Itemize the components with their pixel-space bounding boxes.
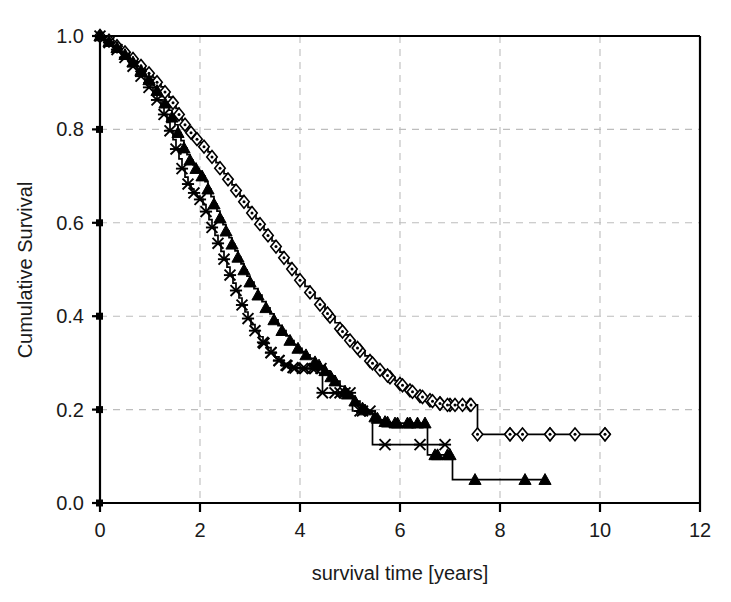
y-tick-square <box>96 406 103 413</box>
series-diamond-marker-center <box>243 200 246 203</box>
series-diamond-censor-marker-center <box>521 433 524 436</box>
x-tick-label: 10 <box>589 519 611 541</box>
series-diamond-censor-marker-center <box>341 330 344 333</box>
series-diamond-censor-marker-center <box>386 374 389 377</box>
series-diamond-marker-center <box>379 368 382 371</box>
plot-canvas: 024681012 0.00.20.40.60.81.0 survival ti… <box>0 0 731 602</box>
y-tick-label: 0.6 <box>56 212 84 234</box>
series-diamond-censor-marker-center <box>411 390 414 393</box>
series-diamond-censor-marker-center <box>401 384 404 387</box>
series-diamond-marker-center <box>203 145 206 148</box>
series-diamond-marker-center <box>227 178 230 181</box>
x-tick-label: 4 <box>294 519 305 541</box>
series-diamond-censor-marker-center <box>431 400 434 403</box>
y-tick-label: 0.0 <box>56 492 84 514</box>
series-diamond-censor-marker-center <box>470 403 473 406</box>
series-diamond-marker-center <box>349 339 352 342</box>
series-diamond-censor-marker-center <box>461 403 464 406</box>
series-diamond-marker-center <box>476 433 479 436</box>
series-cross-marker <box>414 439 426 450</box>
series-diamond-marker-center <box>211 155 214 158</box>
series-triangle-marker <box>202 183 214 194</box>
series-triangle-marker <box>214 212 226 223</box>
series-triangle-marker <box>226 238 238 249</box>
y-tick-square <box>96 126 103 133</box>
y-tick-square <box>96 219 103 226</box>
series-diamond-marker-center <box>291 268 294 271</box>
series-cross-marker <box>379 439 391 450</box>
series-diamond-marker-center <box>299 279 302 282</box>
series-triangle-marker <box>220 225 232 236</box>
series-diamond-censor-marker-center <box>326 312 329 315</box>
series-diamond-censor-marker-center <box>454 403 457 406</box>
series-diamond-marker-center <box>164 91 167 94</box>
series-triangle-marker <box>232 251 244 262</box>
series-diamond-marker-center <box>283 256 286 259</box>
series-triangle-marker <box>184 154 196 165</box>
series-diamond-marker-center <box>190 131 193 134</box>
series-triangle-marker <box>178 142 190 153</box>
y-tick-label: 0.8 <box>56 118 84 140</box>
x-axis-title: survival time [years] <box>312 562 489 584</box>
series-diamond-marker-center <box>184 123 187 126</box>
series-diamond-marker-center <box>219 167 222 170</box>
series-diamond-marker-center <box>235 189 238 192</box>
series-diamond-censor-marker-center <box>371 362 374 365</box>
series-diamond-marker-center <box>196 138 199 141</box>
series-diamond-censor-marker-center <box>446 403 449 406</box>
series-diamond-censor-marker-center <box>356 346 359 349</box>
y-tick-square <box>96 313 103 320</box>
y-tick-label: 1.0 <box>56 25 84 47</box>
series-diamond-censor-marker-center <box>549 433 552 436</box>
series-diamond-marker-center <box>156 81 159 84</box>
survival-curve-figure: 024681012 0.00.20.40.60.81.0 survival ti… <box>0 0 731 602</box>
series-diamond-censor-marker-center <box>574 433 577 436</box>
x-tick-label: 6 <box>394 519 405 541</box>
x-tick-label: 2 <box>194 519 205 541</box>
series-diamond-line <box>100 36 605 434</box>
y-tick-label: 0.2 <box>56 399 84 421</box>
series-diamond-censor-marker-center <box>439 402 442 405</box>
series-cross-censor-marker <box>439 439 451 450</box>
series-diamond-marker-center <box>178 113 181 116</box>
series-diamond-censor-marker-center <box>509 433 512 436</box>
censor-markers <box>94 30 610 485</box>
series-diamond-marker-center <box>319 303 322 306</box>
series-triangle-marker <box>238 264 250 275</box>
y-axis-title: Cumulative Survival <box>14 182 36 359</box>
series-diamond-marker-center <box>172 101 175 104</box>
axis-ticks <box>92 33 700 513</box>
series-diamond-marker-center <box>259 223 262 226</box>
y-tick-label: 0.4 <box>56 305 84 327</box>
x-tick-label: 0 <box>94 519 105 541</box>
x-tick-label: 12 <box>689 519 711 541</box>
series-cross-censor-marker <box>258 338 270 349</box>
series-diamond-marker-center <box>267 234 270 237</box>
series-diamond-censor-marker-center <box>604 433 607 436</box>
series-diamond-marker-center <box>309 291 312 294</box>
y-tick-labels: 0.00.20.40.60.81.0 <box>56 25 84 514</box>
series-diamond-marker-center <box>275 245 278 248</box>
x-tick-labels: 024681012 <box>94 519 711 541</box>
y-tick-square <box>96 500 103 507</box>
series-diamond-censor-marker-center <box>421 395 424 398</box>
series-diamond-marker-center <box>251 211 254 214</box>
x-tick-label: 8 <box>494 519 505 541</box>
